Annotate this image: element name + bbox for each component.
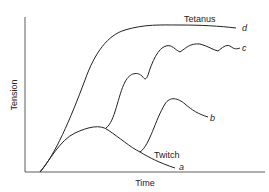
curve-b-label: b: [210, 113, 215, 123]
x-axis-label: Time: [135, 178, 155, 188]
curve-c-unfused-tetanus: [106, 44, 240, 128]
curve-a-label: a: [179, 162, 184, 172]
curve-d-label: d: [242, 23, 248, 33]
tetanus-label: Tetanus: [184, 14, 216, 24]
twitch-label: Twitch: [154, 150, 180, 160]
y-axis-label: Tension: [9, 79, 19, 110]
curve-c-label: c: [242, 43, 247, 53]
curve-d-tetanus: [40, 25, 236, 172]
curve-b-summation: [140, 99, 208, 152]
tension-time-diagram: Tension Time Tetanus Twitch a b c d: [0, 0, 269, 192]
